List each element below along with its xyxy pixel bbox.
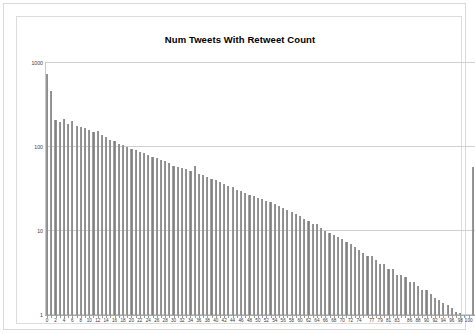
x-tick-mark [110, 315, 111, 318]
x-tick-mark [190, 315, 191, 318]
bar [92, 132, 94, 315]
x-tick-mark [351, 315, 352, 318]
x-tick-label-92: 92 [432, 318, 437, 323]
x-tick-mark [397, 315, 398, 318]
x-tick-label-98: 98 [458, 318, 463, 323]
x-tick-label-48: 48 [247, 318, 252, 323]
bar [71, 121, 73, 315]
x-tick-mark [228, 315, 229, 318]
bar [354, 247, 356, 315]
bar [404, 277, 406, 315]
bar [434, 298, 436, 315]
bar [84, 128, 86, 315]
bar [375, 260, 377, 315]
x-tick-mark [443, 315, 444, 318]
bar [156, 158, 158, 315]
x-tick-label-72: 72 [348, 318, 353, 323]
bar [168, 163, 170, 315]
x-axis-tick-labels: 0246810121416182022242628303234363840424… [45, 318, 475, 332]
x-tick-mark [93, 315, 94, 318]
x-tick-mark [195, 315, 196, 318]
bar [371, 256, 373, 315]
bar [147, 155, 149, 315]
x-tick-mark [330, 315, 331, 318]
bar [278, 206, 280, 315]
bar [341, 239, 343, 315]
x-tick-mark [165, 315, 166, 318]
x-tick-label-46: 46 [238, 318, 243, 323]
x-tick-mark [51, 315, 52, 318]
x-tick-mark [224, 315, 225, 318]
x-tick-mark [47, 315, 48, 318]
bar [383, 264, 385, 315]
x-tick-mark [220, 315, 221, 318]
x-tick-label-22: 22 [137, 318, 142, 323]
x-tick-mark [368, 315, 369, 318]
bar [396, 275, 398, 315]
bar [76, 126, 78, 315]
bar [240, 191, 242, 315]
bar [206, 177, 208, 315]
bar [88, 130, 90, 315]
bar [109, 140, 111, 315]
bar [118, 144, 120, 315]
x-tick-label-83: 83 [394, 318, 399, 323]
bar [413, 282, 415, 315]
bar [122, 145, 124, 315]
y-tick-label-10: 10 [37, 228, 43, 234]
x-tick-mark [435, 315, 436, 318]
chart-title: Num Tweets With Retweet Count [17, 34, 463, 45]
x-tick-mark [469, 315, 470, 318]
x-tick-mark [464, 315, 465, 318]
x-tick-mark [212, 315, 213, 318]
bar [257, 198, 259, 315]
x-tick-mark [393, 315, 394, 318]
x-tick-label-88: 88 [416, 318, 421, 323]
x-tick-mark [245, 315, 246, 318]
y-tick-label-1000: 1000 [31, 60, 43, 66]
bar [194, 166, 196, 315]
bar [198, 174, 200, 315]
bar [328, 233, 330, 315]
bar [80, 127, 82, 315]
bar [135, 150, 137, 315]
x-tick-mark [262, 315, 263, 318]
x-tick-mark [346, 315, 347, 318]
x-tick-mark [115, 315, 116, 318]
bar [295, 214, 297, 315]
x-tick-mark [77, 315, 78, 318]
bar [345, 242, 347, 316]
x-tick-mark [405, 315, 406, 318]
bar [337, 237, 339, 315]
bar [409, 282, 411, 315]
bar [274, 204, 276, 315]
x-tick-mark [182, 315, 183, 318]
x-tick-label-62: 62 [306, 318, 311, 323]
x-tick-mark [131, 315, 132, 318]
x-tick-label-36: 36 [196, 318, 201, 323]
x-tick-label-34: 34 [188, 318, 193, 323]
x-tick-label-18: 18 [120, 318, 125, 323]
x-tick-mark [216, 315, 217, 318]
x-tick-label-96: 96 [449, 318, 454, 323]
x-tick-label-2: 2 [54, 318, 57, 323]
x-tick-mark [64, 315, 65, 318]
x-tick-mark [89, 315, 90, 318]
bar [189, 171, 191, 315]
bar [236, 190, 238, 315]
bar [438, 300, 440, 315]
x-tick-label-44: 44 [230, 318, 235, 323]
x-tick-mark [81, 315, 82, 318]
x-tick-mark [157, 315, 158, 318]
x-tick-mark [60, 315, 61, 318]
x-tick-mark [144, 315, 145, 318]
x-tick-mark [56, 315, 57, 318]
x-tick-mark [313, 315, 314, 318]
x-tick-label-28: 28 [163, 318, 168, 323]
x-tick-mark [127, 315, 128, 318]
bar [151, 157, 153, 315]
bar [316, 224, 318, 315]
x-tick-label-94: 94 [441, 318, 446, 323]
x-tick-label-52: 52 [264, 318, 269, 323]
x-tick-mark [304, 315, 305, 318]
